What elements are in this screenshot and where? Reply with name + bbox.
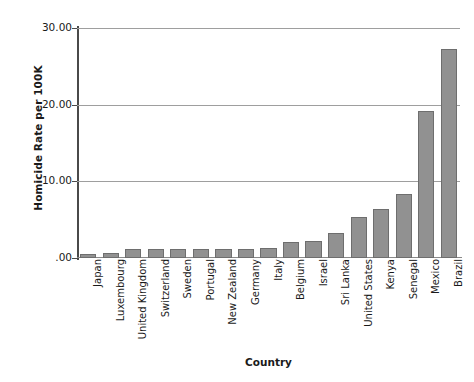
x-axis-tick-label: Brazil [453,259,464,287]
x-axis-tick-label: Portugal [205,259,216,300]
y-axis-title: Homicide Rate per 100K [32,38,44,238]
y-axis-tick-label: 10.00 [12,174,72,186]
x-axis-tick-label: Israel [318,259,329,286]
plot-area [77,28,460,258]
bar [148,249,164,258]
bar [328,233,344,258]
bar [260,248,276,258]
bar [125,249,141,258]
bar [441,49,457,258]
bar [418,111,434,258]
x-axis-tick-label: Kenya [385,259,396,290]
x-axis-tick-labels: JapanLuxembourgUnited KingdomSwitzerland… [77,259,460,354]
x-axis-tick-label: New Zealand [227,259,238,325]
bar [351,217,367,258]
bar [215,249,231,258]
x-axis-tick-label: Senegal [408,259,419,299]
bar [283,242,299,258]
x-axis-tick-label: Luxembourg [115,259,126,321]
x-axis-title: Country [77,356,460,368]
y-axis-tick-label: 20.00 [12,98,72,110]
bar [396,194,412,258]
bar [305,241,321,258]
x-axis-tick-label: Mexico [430,259,441,294]
y-axis-tick-label: 30.00 [12,21,72,33]
bar [80,254,96,258]
x-axis-tick-label: Switzerland [160,259,171,317]
x-axis-tick-label: Belgium [295,259,306,300]
bars-group [77,28,460,258]
homicide-rate-bar-chart: Homicide Rate per 100K 30.0020.0010.00.0… [0,0,474,382]
x-axis-tick-label: Germany [250,259,261,305]
y-axis-tick-label: .00 [12,251,72,263]
bar [238,249,254,258]
x-axis-tick-label: Sri Lanka [340,259,351,305]
x-axis-tick-label: United Kingdom [137,259,148,339]
x-axis-tick-label: Japan [92,259,103,287]
bar [103,253,119,258]
x-axis-tick-label: Sweden [182,259,193,299]
bar [373,209,389,258]
bar [193,249,209,258]
x-axis-tick-label: Italy [273,259,284,281]
bar [170,249,186,258]
x-axis-tick-label: United States [363,259,374,327]
